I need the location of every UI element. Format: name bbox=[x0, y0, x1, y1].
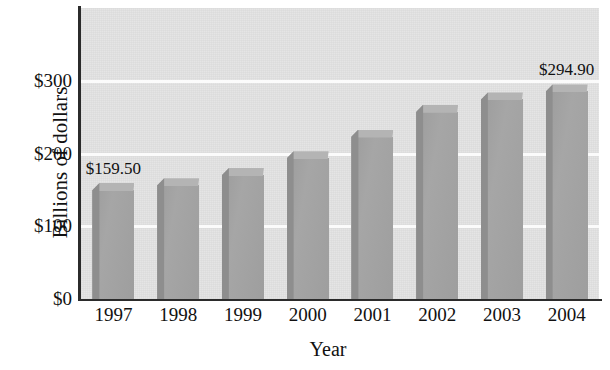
x-tick-label: 1999 bbox=[224, 304, 262, 326]
bar bbox=[92, 183, 134, 299]
x-tick-label: 2002 bbox=[418, 304, 456, 326]
x-axis-title-text: Year bbox=[310, 338, 347, 361]
y-axis-line bbox=[78, 6, 81, 301]
bar bbox=[157, 178, 199, 299]
bar bbox=[416, 105, 458, 299]
bar-value-label: $159.50 bbox=[86, 159, 141, 179]
bar bbox=[287, 151, 329, 299]
bar-side-face bbox=[416, 105, 424, 299]
bar-value-label: $294.90 bbox=[539, 60, 594, 80]
bar-side-face bbox=[351, 130, 359, 300]
bar-chart: Billions of dollars $0$100$200$300 19971… bbox=[0, 0, 610, 370]
x-axis-line bbox=[78, 299, 602, 301]
bar-side-face bbox=[92, 183, 100, 299]
bar bbox=[546, 84, 588, 299]
x-tick-label: 2003 bbox=[483, 304, 521, 326]
bar-side-face bbox=[222, 168, 230, 299]
y-tick-label: $0 bbox=[4, 288, 78, 310]
x-tick-label: 1997 bbox=[94, 304, 132, 326]
y-tick-label: $300 bbox=[4, 70, 78, 92]
bar bbox=[481, 92, 523, 299]
bar-side-face bbox=[546, 84, 554, 299]
x-tick-label: 1998 bbox=[159, 304, 197, 326]
y-tick-label: $100 bbox=[4, 215, 78, 237]
bar bbox=[222, 168, 264, 299]
bar bbox=[351, 130, 393, 300]
x-tick-label: 2001 bbox=[353, 304, 391, 326]
x-tick-label: 2000 bbox=[289, 304, 327, 326]
gridline bbox=[81, 80, 599, 83]
bar-side-face bbox=[481, 92, 489, 299]
bar-side-face bbox=[287, 151, 295, 299]
x-axis-title: Year bbox=[0, 338, 610, 361]
y-tick-label: $200 bbox=[4, 143, 78, 165]
bar-side-face bbox=[157, 178, 165, 299]
x-tick-label: 2004 bbox=[548, 304, 586, 326]
y-axis-tick-labels: $0$100$200$300 bbox=[0, 0, 78, 370]
plot-area bbox=[81, 8, 599, 299]
